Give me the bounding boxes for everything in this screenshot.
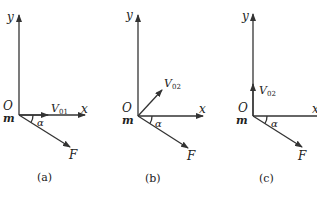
force-arrow [138, 116, 188, 148]
mass-label: m [122, 114, 134, 127]
mass-label: m [3, 112, 15, 125]
panel-caption: (c) [259, 172, 274, 185]
panel-a: y x O m V01 α F (a) [3, 10, 88, 184]
angle-arc [150, 116, 152, 124]
force-label: F [68, 148, 78, 162]
angle-arc [265, 116, 267, 124]
velocity-label: V01 [51, 102, 68, 116]
panel-b: y x O m V02 α F (b) [122, 8, 206, 185]
x-axis-label: x [199, 102, 206, 116]
panel-caption: (b) [145, 172, 161, 185]
angle-arc [31, 115, 33, 123]
angle-label: α [155, 118, 162, 129]
velocity-label: V02 [164, 77, 181, 91]
x-axis-label: x [312, 102, 317, 116]
angle-label: α [37, 117, 44, 128]
y-axis-label: y [241, 9, 249, 23]
velocity-arrow [138, 90, 162, 116]
velocity-label: V02 [259, 84, 276, 98]
mass-label: m [236, 114, 248, 127]
panel-caption: (a) [37, 171, 52, 184]
force-arrow [19, 115, 70, 147]
angle-label: α [271, 118, 278, 129]
origin-label: O [238, 101, 248, 115]
diagram-canvas: y x O m V01 α F (a) y x O m V02 α F (b) … [0, 0, 317, 199]
force-label: F [297, 149, 307, 163]
y-axis-label: y [125, 8, 133, 22]
y-axis-label: y [6, 10, 14, 24]
force-label: F [186, 149, 196, 163]
origin-label: O [122, 101, 132, 115]
panel-c: y x O m V02 α F (c) [236, 9, 317, 185]
x-axis-label: x [81, 102, 88, 116]
origin-label: O [3, 99, 13, 113]
